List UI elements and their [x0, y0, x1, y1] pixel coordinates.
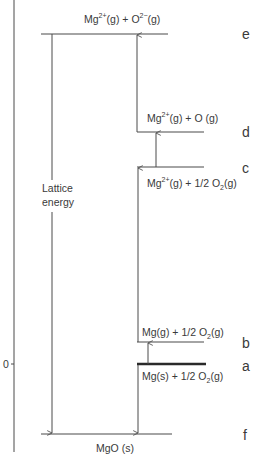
level-d: Mg2+(g) + O (g) d [137, 111, 250, 140]
energy-axis: 0 [3, 0, 14, 452]
level-a-letter: a [242, 358, 250, 374]
level-f-letter: f [243, 427, 247, 443]
level-c-species: Mg2+(g) + 1/2 O2(g) [147, 176, 237, 191]
level-c: Mg2+(g) + 1/2 O2(g) c [137, 160, 249, 191]
born-haber-cycle-diagram: 0 Mg2+(g) + O2−(g) e Mg2+(g) + O (g) d M… [0, 0, 263, 469]
level-c-letter: c [242, 160, 249, 176]
level-a: Mg(s) + 1/2 O2(g) a [137, 358, 250, 384]
level-d-species: Mg2+(g) + O (g) [147, 111, 218, 124]
svg-text:energy: energy [42, 196, 75, 208]
lattice-energy-label: Lattice energy [42, 182, 75, 208]
level-b: Mg(g) + 1/2 O2(g) b [137, 326, 250, 351]
level-e-letter: e [242, 26, 250, 42]
level-f-species: MgO (s) [96, 442, 134, 454]
level-e: Mg2+(g) + O2−(g) e [41, 12, 250, 42]
level-f: MgO (s) f [41, 427, 247, 454]
level-a-species: Mg(s) + 1/2 O2(g) [142, 370, 223, 384]
svg-text:Lattice: Lattice [42, 182, 73, 194]
level-d-letter: d [242, 124, 250, 140]
zero-label: 0 [3, 358, 9, 370]
transition-arrows [52, 34, 156, 433]
level-b-letter: b [242, 335, 250, 351]
level-b-species: Mg(g) + 1/2 O2(g) [142, 326, 224, 340]
level-e-species: Mg2+(g) + O2−(g) [84, 12, 160, 25]
